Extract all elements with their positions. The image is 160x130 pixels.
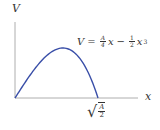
cubic-curve (15, 48, 98, 98)
equation-lhs: V (77, 36, 84, 47)
fraction-1-over-2: 1 2 (129, 35, 135, 48)
fraction-a-over-2: A 2 (98, 102, 105, 119)
fraction-a-over-4: A 4 (100, 35, 106, 48)
equation-label: V = A 4 x − 1 2 x3 (77, 35, 147, 48)
x-axis-label: x (145, 90, 151, 103)
sqrt-icon: √ (87, 102, 97, 122)
root-label: √ A 2 (87, 102, 106, 122)
equation-equals: = (87, 36, 95, 47)
y-axis-label: V (12, 2, 20, 15)
plot-canvas (0, 0, 160, 130)
